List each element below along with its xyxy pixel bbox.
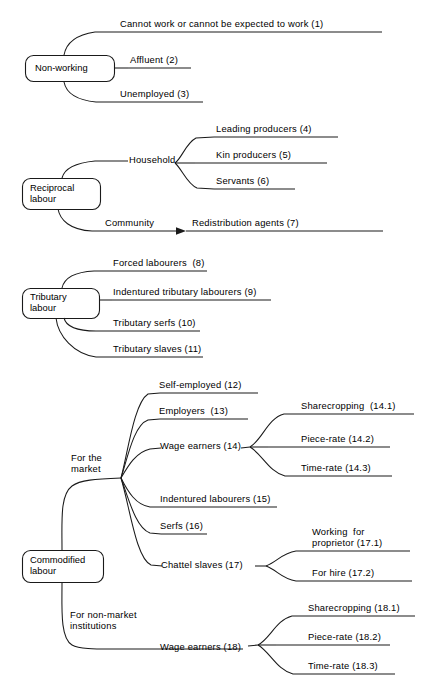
leaf-label-17-1-line2[interactable]: proprietor (17.1) (312, 538, 382, 549)
edge-reciprocal-to-community (58, 209, 105, 231)
node-label-for-non-market-line2[interactable]: institutions (70, 621, 117, 632)
edge-tributary-to-8 (62, 271, 112, 288)
node-label-18[interactable]: Wage earners (18) (160, 642, 241, 653)
leaf-label-18-1[interactable]: Sharecropping (18.1) (308, 603, 400, 614)
leaf-label-6[interactable]: Servants (6) (216, 176, 269, 187)
leaf-label-16[interactable]: Serfs (16) (160, 521, 203, 532)
leaf-label-14-1[interactable]: Sharecropping (14.1) (301, 401, 396, 412)
node-label-reciprocal-labour-line2[interactable]: labour (30, 193, 56, 204)
leaf-label-7[interactable]: Redistribution agents (7) (192, 218, 299, 229)
edge-market-to-16 (121, 478, 161, 534)
node-label-17[interactable]: Chattel slaves (17) (161, 560, 243, 571)
node-label-tributary-labour-line1[interactable]: Tributary (30, 291, 67, 302)
leaf-label-18-2[interactable]: Piece-rate (18.2) (308, 632, 381, 643)
node-label-reciprocal-labour-line1[interactable]: Reciprocal (30, 182, 74, 193)
edge-17-to-172 (266, 566, 311, 581)
leaf-label-11[interactable]: Tributary slaves (11) (113, 344, 201, 355)
leaf-label-1[interactable]: Cannot work or cannot be expected to wor… (120, 19, 323, 30)
edge-market-to-12 (121, 393, 160, 478)
edge-18-junction-stub (248, 645, 258, 646)
node-label-commodified-labour-line2[interactable]: labour (30, 565, 56, 576)
edge-reciprocal-to-household (62, 161, 128, 178)
node-label-household[interactable]: Household (129, 155, 176, 166)
leaf-label-4[interactable]: Leading producers (4) (216, 124, 312, 135)
leaf-label-14-2[interactable]: Piece-rate (14.2) (301, 434, 374, 445)
node-label-14[interactable]: Wage earners (14) (160, 441, 241, 452)
edge-household-to-6 (175, 163, 214, 189)
diagram-lines (0, 0, 424, 693)
edge-commodified-to-for-the-market (62, 478, 121, 550)
edge-17-to-171 (266, 551, 311, 566)
edge-market-to-17 (121, 478, 162, 566)
leaf-label-17-2[interactable]: For hire (17.2) (312, 568, 374, 579)
leaf-label-9[interactable]: Indentured tributary labourers (9) (113, 287, 256, 298)
edge-household-to-4 (175, 137, 214, 163)
node-label-community[interactable]: Community (105, 218, 154, 229)
node-label-for-the-market-line2[interactable]: market (71, 464, 101, 475)
leaf-label-13[interactable]: Employers (13) (159, 406, 228, 417)
edge-18-to-183 (258, 645, 308, 674)
edge-14-junction-stub (241, 447, 250, 448)
node-label-commodified-labour-line1[interactable]: Commodified (30, 554, 85, 565)
arrowhead-community (176, 227, 186, 235)
edge-18-to-181 (258, 616, 307, 645)
edge-non-working-to-1 (64, 32, 118, 55)
leaf-label-8[interactable]: Forced labourers (8) (113, 258, 204, 269)
edge-14-to-141 (250, 414, 300, 447)
edge-14-to-143 (250, 447, 300, 476)
leaf-label-3[interactable]: Unemployed (3) (120, 89, 189, 100)
leaf-label-14-3[interactable]: Time-rate (14.3) (301, 463, 371, 474)
node-label-tributary-labour-line2[interactable]: labour (30, 302, 56, 313)
leaf-label-15[interactable]: Indentured labourers (15) (160, 494, 271, 505)
leaf-label-2[interactable]: Affluent (2) (130, 55, 178, 66)
node-label-non-working[interactable]: Non-working (35, 62, 88, 73)
edge-non-working-to-3 (64, 82, 118, 102)
leaf-label-12[interactable]: Self-employed (12) (159, 380, 242, 391)
leaf-label-10[interactable]: Tributary serfs (10) (113, 318, 196, 329)
edge-tributary-to-11 (56, 318, 112, 357)
leaf-label-5[interactable]: Kin producers (5) (216, 150, 291, 161)
diagram-canvas: Non-working Cannot work or cannot be exp… (0, 0, 424, 693)
leaf-label-18-3[interactable]: Time-rate (18.3) (308, 661, 378, 672)
edge-tributary-to-10 (64, 318, 112, 331)
